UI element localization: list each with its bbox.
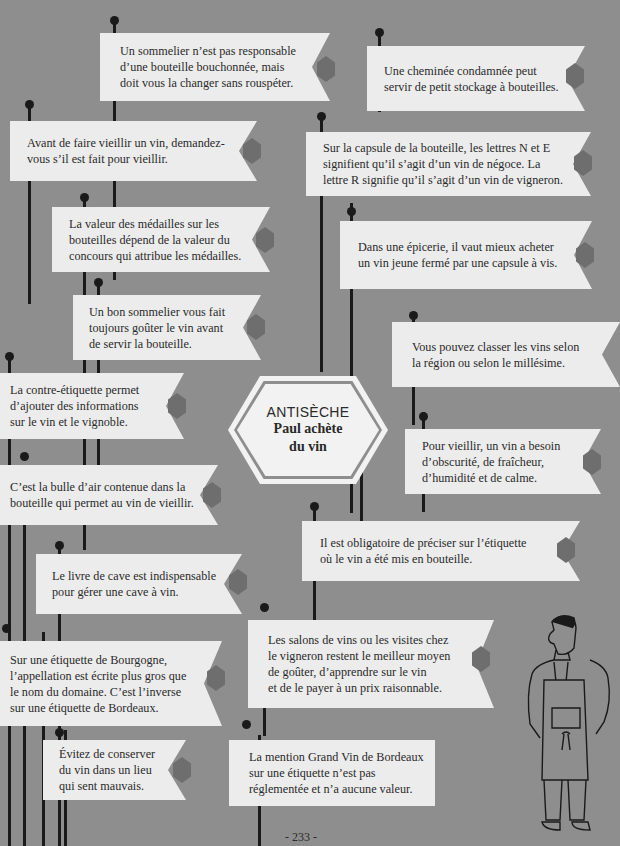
pin-dot	[55, 728, 64, 737]
tip-banner: Pour vieillir, un vin a besoin d’obscuri…	[405, 429, 601, 494]
pin-dot	[317, 112, 326, 121]
tip-banner: La mention Grand Vin de Bordeaux sur une…	[229, 740, 435, 806]
pin-dot	[94, 278, 103, 287]
diamond-icon	[256, 227, 274, 253]
tip-banner: Dans une épicerie, il vaut mieux acheter…	[340, 221, 592, 289]
pin-dot	[55, 541, 64, 550]
tip-banner: Un bon sommelier vous fait toujours goût…	[73, 295, 261, 360]
pin-dot	[2, 624, 11, 633]
tip-text: Vous pouvez classer les vins selon la ré…	[412, 339, 579, 371]
pin-dot	[347, 207, 356, 216]
pin-dot	[25, 100, 34, 109]
pin-dot	[5, 352, 14, 361]
center-hexagon: ANTISÈCHE Paul achète du vin	[237, 384, 379, 476]
page-number: - 233 -	[285, 830, 317, 845]
tip-text: Les salons de vins ou les visites chez l…	[268, 632, 450, 696]
tip-text: C’est la bulle d’air contenue dans la bo…	[10, 479, 194, 511]
tip-banner: Évitez de conserver du vin dans un lieu …	[43, 740, 186, 800]
tip-banner: La valeur des médailles sur les bouteill…	[52, 207, 270, 272]
tip-banner: C’est la bulle d’air contenue dans la bo…	[0, 465, 218, 525]
pin-dot	[260, 603, 269, 612]
pin-dot	[409, 311, 418, 320]
tip-text: Dans une épicerie, il vaut mieux acheter…	[358, 239, 557, 271]
tip-banner: La contre-étiquette permet d’ajouter des…	[0, 373, 184, 439]
diamond-icon	[317, 56, 335, 82]
pin-dot	[419, 412, 428, 421]
tip-banner: Un sommelier n’est pas responsable d’une…	[100, 33, 330, 101]
tip-text: Sur une étiquette de Bourgogne, l’appell…	[10, 652, 186, 716]
tip-text: Évitez de conserver du vin dans un lieu …	[59, 746, 155, 794]
pin-dot	[80, 193, 89, 202]
tip-text: La contre-étiquette permet d’ajouter des…	[10, 382, 139, 430]
pin-dot	[242, 720, 251, 729]
tip-text: Un sommelier n’est pas responsable d’une…	[120, 43, 296, 91]
tip-text: Une cheminée condamnée peut servir de pe…	[384, 63, 559, 95]
tip-text: Sur la capsule de la bouteille, les lett…	[323, 140, 563, 188]
diamond-icon	[173, 757, 191, 783]
tip-banner: Avant de faire vieillir un vin, demandez…	[10, 121, 257, 181]
tip-text: Le livre de cave est indispensable pour …	[52, 568, 216, 600]
tip-text: La mention Grand Vin de Bordeaux sur une…	[249, 749, 424, 797]
pin-dot	[110, 16, 119, 25]
tip-banner: Il est obligatoire de préciser sur l’éti…	[302, 521, 580, 581]
tip-text: Pour vieillir, un vin a besoin d’obscuri…	[422, 438, 560, 486]
pin-dot	[310, 502, 319, 511]
diamond-icon	[229, 569, 247, 595]
diamond-icon	[203, 482, 221, 508]
sommelier-illustration	[500, 600, 620, 840]
tip-banner: Sur la capsule de la bouteille, les lett…	[306, 132, 591, 196]
pin-dot	[20, 452, 29, 461]
tip-banner: Le livre de cave est indispensable pour …	[36, 554, 242, 614]
diamond-icon	[243, 138, 261, 164]
tip-text: Avant de faire vieillir un vin, demandez…	[27, 135, 225, 167]
page-title: Paul achète du vin	[274, 420, 343, 456]
tip-banner: Les salons de vins ou les visites chez l…	[248, 620, 494, 708]
tip-text: Un bon sommelier vous fait toujours goût…	[89, 304, 225, 352]
tip-text: La valeur des médailles sur les bouteill…	[69, 216, 241, 264]
tip-banner: Vous pouvez classer les vins selon la ré…	[392, 322, 620, 387]
diamond-icon	[247, 314, 265, 340]
cheatsheet-label: ANTISÈCHE	[267, 404, 350, 420]
tip-banner: Une cheminée condamnée peut servir de pe…	[367, 46, 585, 111]
pin-dot	[375, 28, 384, 37]
tip-text: Il est obligatoire de préciser sur l’éti…	[320, 535, 526, 567]
tip-banner: Sur une étiquette de Bourgogne, l’appell…	[0, 641, 222, 726]
